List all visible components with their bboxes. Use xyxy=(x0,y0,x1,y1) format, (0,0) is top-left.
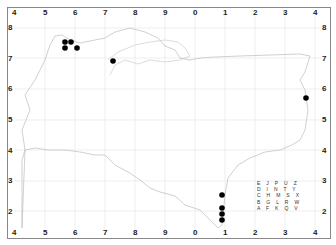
y-tick-left: 6 xyxy=(8,84,12,93)
occurrence-point xyxy=(62,39,68,45)
letter-grid-row: C H M S X xyxy=(257,192,301,198)
x-tick-bottom: 8 xyxy=(133,228,137,237)
x-tick-bottom: 1 xyxy=(223,228,227,237)
y-tick-right: 4 xyxy=(322,146,326,155)
occurrence-point xyxy=(74,45,80,51)
occurrence-point xyxy=(62,45,68,51)
x-tick-top: 2 xyxy=(253,8,257,17)
x-tick-top: 4 xyxy=(12,8,16,17)
x-tick-bottom: 4 xyxy=(313,228,317,237)
peninsula xyxy=(108,40,190,75)
y-tick-right: 8 xyxy=(322,23,326,32)
occurrence-point xyxy=(303,95,309,101)
y-tick-left: 8 xyxy=(8,23,12,32)
occurrence-point xyxy=(219,211,225,217)
x-tick-top: 8 xyxy=(133,8,137,17)
y-tick-left: 7 xyxy=(8,54,12,63)
occurrence-point xyxy=(219,217,225,223)
occurrence-point xyxy=(219,192,225,198)
x-tick-bottom: 5 xyxy=(43,228,47,237)
y-tick-right: 7 xyxy=(322,54,326,63)
x-tick-top: 0 xyxy=(193,8,197,17)
x-tick-top: 7 xyxy=(103,8,107,17)
y-tick-left: 2 xyxy=(8,207,12,216)
x-tick-bottom: 6 xyxy=(73,228,77,237)
x-tick-top: 1 xyxy=(223,8,227,17)
x-tick-bottom: 3 xyxy=(283,228,287,237)
x-tick-bottom: 4 xyxy=(12,228,16,237)
y-tick-right: 3 xyxy=(322,176,326,185)
y-tick-left: 3 xyxy=(8,176,12,185)
occurrence-point xyxy=(68,39,74,45)
x-tick-top: 5 xyxy=(43,8,47,17)
y-tick-left: 4 xyxy=(8,146,12,155)
x-tick-bottom: 9 xyxy=(163,228,167,237)
x-tick-top: 9 xyxy=(163,8,167,17)
letter-grid: E J P U ZD I N T YC H M S XB G L R WA F … xyxy=(257,180,301,211)
x-tick-top: 4 xyxy=(313,8,317,17)
letter-grid-row: A F K Q V xyxy=(257,205,301,211)
y-tick-left: 5 xyxy=(8,115,12,124)
x-tick-bottom: 2 xyxy=(253,228,257,237)
x-tick-top: 6 xyxy=(73,8,77,17)
occurrence-point xyxy=(219,205,225,211)
x-tick-bottom: 7 xyxy=(103,228,107,237)
occurrence-point xyxy=(110,58,116,64)
letter-grid-row: B G L R W xyxy=(257,199,301,205)
x-tick-bottom: 0 xyxy=(193,228,197,237)
y-tick-right: 6 xyxy=(322,84,326,93)
y-tick-right: 5 xyxy=(322,115,326,124)
x-tick-top: 3 xyxy=(283,8,287,17)
y-tick-right: 2 xyxy=(322,207,326,216)
